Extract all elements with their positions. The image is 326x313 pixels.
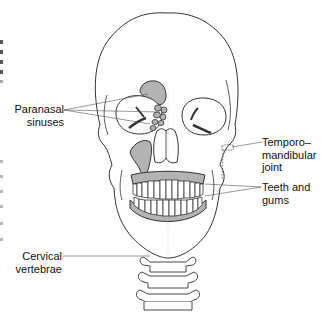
- label-line: vertebrae: [8, 263, 62, 276]
- upper-teeth: [133, 180, 203, 199]
- label-tmj: Temporo– mandibular joint: [262, 136, 326, 174]
- label-line: joint: [262, 161, 326, 174]
- leader-tmj: [232, 142, 262, 147]
- mandible-ramus-right: [212, 170, 214, 200]
- label-line: Temporo–: [262, 136, 326, 149]
- label-line: gums: [262, 194, 326, 207]
- temporal-line-right: [226, 80, 230, 130]
- label-line: Paranasal: [8, 103, 64, 116]
- label-line: Cervical: [8, 250, 62, 263]
- label-line: Teeth and: [262, 181, 326, 194]
- temporal-line-left: [104, 95, 108, 135]
- skull-diagram: Paranasal sinuses Temporo– mandibular jo…: [0, 0, 326, 313]
- label-paranasal-sinuses: Paranasal sinuses: [8, 103, 64, 128]
- label-line: sinuses: [8, 116, 64, 129]
- label-line: mandibular: [262, 149, 326, 162]
- cheek-outline-left: [98, 125, 114, 188]
- cheek-outline-right: [220, 125, 236, 188]
- mandible-ramus-left: [120, 170, 122, 200]
- label-cervical-vertebrae: Cervical vertebrae: [8, 250, 62, 275]
- tmj-dotted-line: [222, 150, 223, 180]
- label-teeth-and-gums: Teeth and gums: [262, 181, 326, 206]
- cervical-vertebrae: [136, 257, 199, 310]
- maxillary-sinus-left: [130, 140, 151, 174]
